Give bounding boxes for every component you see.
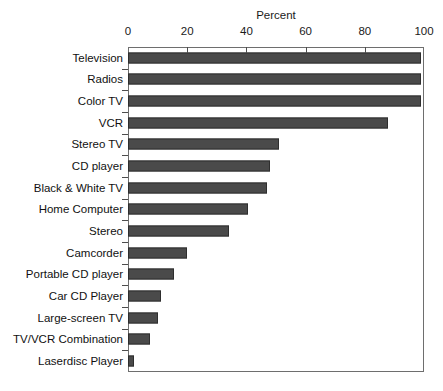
category-label-laserdisc-player: Laserdisc Player [38, 355, 123, 368]
category-label-camcorder: Camcorder [66, 246, 123, 259]
y-axis-tick-mark-8 [122, 220, 128, 221]
bar-row: Home Computer [0, 199, 443, 221]
bar-television [128, 52, 421, 63]
scan-artifact-text [8, 0, 158, 7]
y-axis-tick-mark-5 [122, 155, 128, 156]
category-label-black-white-tv: Black & White TV [34, 181, 123, 194]
bar-row: Car CD Player [0, 285, 443, 307]
category-label-cd-player: CD player [72, 160, 123, 173]
category-label-tv-vcr-combination: TV/VCR Combination [13, 333, 123, 346]
bar-row: Color TV [0, 90, 443, 112]
category-label-home-computer: Home Computer [39, 203, 123, 216]
y-axis-tick-mark-13 [122, 329, 128, 330]
y-axis-tick-mark-10 [122, 264, 128, 265]
bar-color-tv [128, 96, 421, 107]
x-tick-label-20: 20 [181, 24, 194, 38]
x-tick-label-0: 0 [125, 24, 131, 38]
bar-row: CD player [0, 155, 443, 177]
y-axis-tick-mark-12 [122, 307, 128, 308]
category-label-television: Television [73, 51, 124, 64]
y-axis-tick-mark-2 [122, 90, 128, 91]
x-axis-tick-mark-20 [187, 47, 188, 53]
y-axis-tick-mark-6 [122, 177, 128, 178]
y-axis-tick-mark-4 [122, 134, 128, 135]
category-label-vcr: VCR [99, 116, 123, 129]
y-axis-tick-mark-3 [122, 112, 128, 113]
x-tick-label-60: 60 [299, 24, 312, 38]
bar-row: Television [0, 47, 443, 69]
y-axis-tick-mark-11 [122, 285, 128, 286]
bar-cd-player [128, 161, 270, 172]
y-axis-tick-mark-14 [122, 350, 128, 351]
bar-row: Camcorder [0, 242, 443, 264]
y-axis-tick-mark-7 [122, 199, 128, 200]
bar-car-cd-player [128, 291, 161, 302]
x-axis-title: Percent [128, 9, 424, 22]
y-axis-tick-mark-9 [122, 242, 128, 243]
x-tick-label-40: 40 [240, 24, 253, 38]
category-label-large-screen-tv: Large-screen TV [38, 311, 123, 324]
category-label-portable-cd-player: Portable CD player [26, 268, 123, 281]
bar-row: VCR [0, 112, 443, 134]
bar-vcr [128, 117, 388, 128]
bar-large-screen-tv [128, 312, 158, 323]
bar-row: Stereo [0, 220, 443, 242]
category-label-color-tv: Color TV [78, 95, 123, 108]
x-axis-tick-mark-40 [246, 47, 247, 53]
bar-portable-cd-player [128, 269, 174, 280]
bar-row: Portable CD player [0, 264, 443, 286]
x-tick-label-80: 80 [358, 24, 371, 38]
bar-stereo [128, 226, 229, 237]
bar-row: Large-screen TV [0, 307, 443, 329]
y-axis-tick-mark-1 [122, 69, 128, 70]
bar-row: Stereo TV [0, 134, 443, 156]
category-label-stereo: Stereo [89, 225, 123, 238]
bar-radios [128, 74, 421, 85]
x-axis-tick-mark-60 [306, 47, 307, 53]
bar-laserdisc-player [128, 356, 134, 367]
bar-stereo-tv [128, 139, 279, 150]
bar-camcorder [128, 247, 187, 258]
percent-ownership-bar-chart: Percent 020406080100 TelevisionRadiosCol… [0, 0, 443, 391]
category-label-car-cd-player: Car CD Player [49, 290, 123, 303]
bar-row: Black & White TV [0, 177, 443, 199]
x-axis-tick-mark-80 [365, 47, 366, 53]
category-label-radios: Radios [87, 73, 123, 86]
bar-row: Radios [0, 69, 443, 91]
x-tick-label-100: 100 [414, 24, 433, 38]
bar-row-group: TelevisionRadiosColor TVVCRStereo TVCD p… [0, 47, 443, 372]
bar-row: TV/VCR Combination [0, 329, 443, 351]
x-axis-tick-label-group: 020406080100 [0, 24, 443, 40]
category-label-stereo-tv: Stereo TV [71, 138, 123, 151]
bar-tv-vcr-combination [128, 334, 150, 345]
bar-black-white-tv [128, 182, 267, 193]
bar-home-computer [128, 204, 248, 215]
bar-row: Laserdisc Player [0, 350, 443, 372]
